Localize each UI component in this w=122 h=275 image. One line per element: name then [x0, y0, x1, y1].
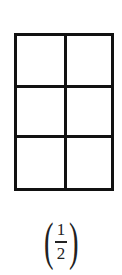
- row-divider-1: [17, 85, 111, 88]
- fraction-bar: [55, 241, 67, 243]
- grid-diagram: [14, 33, 114, 191]
- numerator: 1: [57, 221, 66, 239]
- open-paren: (: [44, 216, 54, 268]
- fraction: 1 2: [55, 221, 67, 263]
- column-divider: [64, 36, 67, 188]
- denominator: 2: [57, 245, 66, 263]
- row-divider-2: [17, 135, 111, 138]
- fraction-label: ( 1 2 ): [0, 212, 122, 272]
- close-paren: ): [69, 216, 79, 268]
